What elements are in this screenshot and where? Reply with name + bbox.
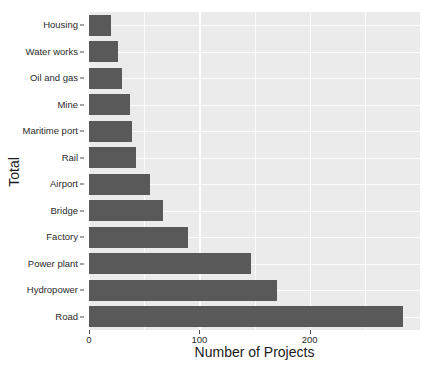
y-tick-label-factory: Factory	[46, 233, 78, 243]
y-tick-label-water-works: Water works	[26, 47, 78, 57]
bar-bridge	[89, 200, 163, 221]
gridline-major-y	[89, 25, 420, 26]
y-tick-mark	[80, 316, 84, 317]
y-tick-mark	[80, 104, 84, 105]
y-tick-label-oil-and-gas: Oil and gas	[30, 74, 78, 84]
x-axis-title: Number of Projects	[89, 344, 420, 360]
bar-oil-and-gas	[89, 68, 122, 89]
bar-housing	[89, 15, 111, 36]
gridline-major-y	[89, 158, 420, 159]
bar-rail	[89, 147, 136, 168]
y-tick-label-bridge: Bridge	[51, 206, 78, 216]
y-tick-mark	[80, 78, 84, 79]
bar-hydropower	[89, 280, 277, 301]
y-tick-mark	[80, 184, 84, 185]
bar-chart: Total HousingWater worksOil and gasMineM…	[0, 0, 426, 366]
gridline-major-y	[89, 131, 420, 132]
gridline-minor-x	[365, 12, 366, 330]
bar-power-plant	[89, 253, 251, 274]
y-tick-mark	[80, 237, 84, 238]
bar-maritime-port	[89, 121, 132, 142]
y-tick-mark	[80, 131, 84, 132]
y-tick-label-mine: Mine	[57, 100, 78, 110]
y-tick-mark	[80, 263, 84, 264]
y-tick-label-rail: Rail	[62, 153, 78, 163]
y-tick-mark	[80, 51, 84, 52]
y-tick-mark	[80, 290, 84, 291]
y-tick-mark	[80, 210, 84, 211]
y-tick-label-airport: Airport	[50, 180, 78, 190]
y-tick-label-power-plant: Power plant	[28, 259, 78, 269]
gridline-major-x	[310, 12, 311, 330]
bar-airport	[89, 174, 150, 195]
y-tick-label-housing: Housing	[43, 21, 78, 31]
gridline-major-y	[89, 78, 420, 79]
bar-road	[89, 306, 403, 327]
y-tick-label-hydropower: Hydropower	[27, 286, 78, 296]
y-axis-tick-labels: HousingWater worksOil and gasMineMaritim…	[0, 12, 85, 330]
y-tick-label-maritime-port: Maritime port	[23, 127, 78, 137]
y-tick-label-road: Road	[55, 312, 78, 322]
bar-mine	[89, 94, 130, 115]
gridline-major-y	[89, 105, 420, 106]
bar-water-works	[89, 41, 118, 62]
y-tick-mark	[80, 157, 84, 158]
plot-panel	[89, 12, 420, 330]
bar-factory	[89, 227, 188, 248]
gridline-major-y	[89, 52, 420, 53]
y-tick-mark	[80, 25, 84, 26]
